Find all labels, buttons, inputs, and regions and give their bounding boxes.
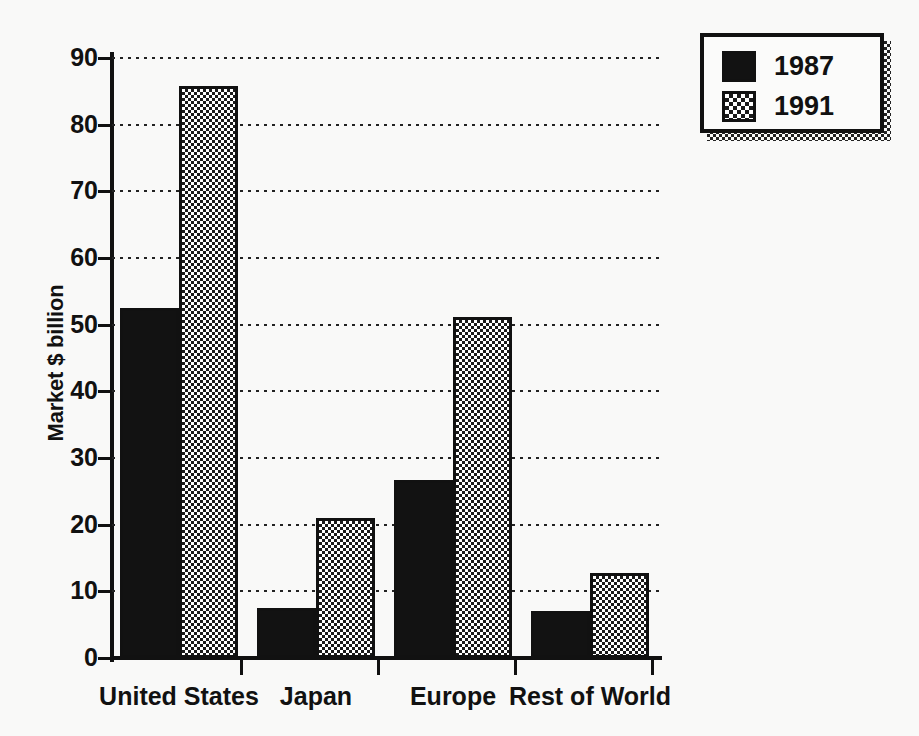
bar-1987-united-states <box>120 308 179 658</box>
x-axis-label-europe: Europe <box>410 684 496 709</box>
y-axis-tick <box>98 257 112 260</box>
bar-1991-united-states <box>179 86 238 658</box>
legend-swatch-icon-1987 <box>722 51 756 82</box>
x-axis-label-japan: Japan <box>280 684 352 709</box>
y-axis-tick <box>98 657 112 660</box>
bar-1991-rest-of-world <box>590 573 649 658</box>
y-axis-tick-label: 10 <box>38 578 98 603</box>
y-axis-tick-label: 20 <box>38 512 98 537</box>
bar-1991-europe <box>453 317 512 658</box>
x-axis-tick <box>240 658 243 675</box>
y-axis-tick <box>98 590 112 593</box>
y-axis-label: Market $ billion <box>43 253 69 473</box>
bar-1987-japan <box>257 608 316 658</box>
x-axis-tick <box>651 658 654 675</box>
y-axis-tick-label: 60 <box>38 245 98 270</box>
y-axis-tick-label: 80 <box>38 112 98 137</box>
y-axis-tick-label: 70 <box>38 178 98 203</box>
y-axis-tick <box>98 324 112 327</box>
y-axis-tick-label: 30 <box>38 445 98 470</box>
gridline <box>112 57 660 59</box>
legend: 1987 1991 <box>700 33 884 133</box>
bar-1991-japan <box>316 518 375 658</box>
bar-1987-rest-of-world <box>531 611 590 658</box>
plot-area: 0102030405060708090United StatesJapanEur… <box>112 58 660 658</box>
y-axis-tick <box>98 390 112 393</box>
y-axis-tick <box>98 124 112 127</box>
y-axis-tick-label: 90 <box>38 45 98 70</box>
y-axis-tick <box>98 57 112 60</box>
y-axis-tick-label: 50 <box>38 312 98 337</box>
y-axis-tick-label: 0 <box>38 645 98 670</box>
y-axis-tick <box>98 457 112 460</box>
legend-swatch-icon-1991 <box>722 91 756 122</box>
x-axis-tick <box>377 658 380 675</box>
bar-1987-europe <box>394 480 453 658</box>
y-axis-tick <box>98 524 112 527</box>
y-axis-tick <box>98 190 112 193</box>
legend-label-1987: 1987 <box>774 50 834 82</box>
bar-chart: Market $ billion 0102030405060708090Unit… <box>0 0 919 736</box>
x-axis-tick <box>514 658 517 675</box>
y-axis-tick-label: 40 <box>38 378 98 403</box>
x-axis-label-united-states: United States <box>99 684 259 709</box>
legend-label-1991: 1991 <box>774 90 834 122</box>
x-axis-label-rest-of-world: Rest of World <box>509 684 671 709</box>
